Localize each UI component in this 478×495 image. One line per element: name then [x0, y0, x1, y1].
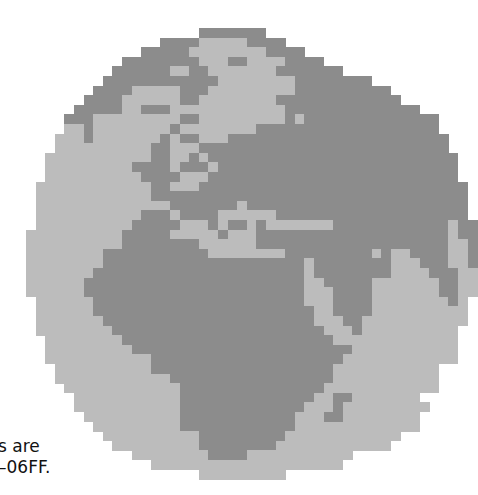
ocean-pixel	[170, 393, 180, 403]
land-pixel	[266, 364, 276, 374]
ocean-pixel	[122, 220, 132, 230]
land-pixel	[160, 38, 170, 48]
ocean-pixel	[74, 402, 84, 412]
land-pixel	[285, 364, 295, 374]
ocean-pixel	[372, 326, 382, 336]
ocean-pixel	[304, 412, 314, 422]
ocean-pixel	[247, 124, 257, 134]
land-pixel	[237, 162, 247, 172]
land-pixel	[151, 153, 161, 163]
land-pixel	[276, 153, 286, 163]
land-pixel	[208, 354, 218, 364]
land-pixel	[285, 422, 295, 432]
land-pixel	[343, 258, 353, 268]
land-pixel	[448, 297, 458, 307]
land-pixel	[276, 364, 286, 374]
land-pixel	[247, 422, 257, 432]
land-pixel	[458, 210, 468, 220]
ocean-pixel	[304, 441, 314, 451]
ocean-pixel	[333, 422, 343, 432]
ocean-pixel	[45, 335, 55, 345]
ocean-pixel	[170, 460, 180, 470]
ocean-pixel	[199, 47, 209, 57]
land-pixel	[199, 86, 209, 96]
ocean-pixel	[420, 287, 430, 297]
ocean-pixel	[84, 316, 94, 326]
land-pixel	[122, 258, 132, 268]
ocean-pixel	[295, 412, 305, 422]
ocean-pixel	[276, 105, 286, 115]
ocean-pixel	[304, 297, 314, 307]
land-pixel	[266, 153, 276, 163]
land-pixel	[400, 162, 410, 172]
land-pixel	[324, 268, 334, 278]
land-pixel	[160, 364, 170, 374]
ocean-pixel	[189, 172, 199, 182]
land-pixel	[84, 124, 94, 134]
ocean-pixel	[429, 297, 439, 307]
ocean-pixel	[362, 374, 372, 384]
ocean-pixel	[36, 230, 46, 240]
land-pixel	[372, 191, 382, 201]
ocean-pixel	[391, 345, 401, 355]
land-pixel	[266, 354, 276, 364]
land-pixel	[93, 278, 103, 288]
land-pixel	[247, 38, 257, 48]
land-pixel	[285, 345, 295, 355]
land-pixel	[276, 239, 286, 249]
land-pixel	[295, 134, 305, 144]
land-pixel	[228, 364, 238, 374]
ocean-pixel	[333, 450, 343, 460]
ocean-pixel	[237, 114, 247, 124]
land-pixel	[199, 383, 209, 393]
land-pixel	[324, 230, 334, 240]
land-pixel	[256, 182, 266, 192]
ocean-pixel	[103, 345, 113, 355]
land-pixel	[112, 258, 122, 268]
ocean-pixel	[256, 47, 266, 57]
land-pixel	[103, 297, 113, 307]
land-pixel	[170, 326, 180, 336]
land-pixel	[160, 258, 170, 268]
land-pixel	[180, 191, 190, 201]
ocean-pixel	[93, 230, 103, 240]
land-pixel	[381, 258, 391, 268]
land-pixel	[266, 230, 276, 240]
land-pixel	[170, 374, 180, 384]
land-pixel	[256, 258, 266, 268]
ocean-pixel	[55, 306, 65, 316]
ocean-pixel	[276, 460, 286, 470]
land-pixel	[333, 230, 343, 240]
land-pixel	[352, 268, 362, 278]
ocean-pixel	[420, 326, 430, 336]
ocean-pixel	[74, 162, 84, 172]
ocean-pixel	[160, 86, 170, 96]
ocean-pixel	[64, 124, 74, 134]
land-pixel	[189, 278, 199, 288]
land-pixel	[429, 210, 439, 220]
ocean-pixel	[55, 191, 65, 201]
land-pixel	[295, 278, 305, 288]
land-pixel	[151, 316, 161, 326]
land-pixel	[247, 28, 257, 38]
ocean-pixel	[132, 431, 142, 441]
caption-line-2: –06FF.	[0, 457, 50, 477]
ocean-pixel	[391, 306, 401, 316]
ocean-pixel	[391, 393, 401, 403]
ocean-pixel	[439, 345, 449, 355]
land-pixel	[314, 172, 324, 182]
ocean-pixel	[26, 230, 36, 240]
ocean-pixel	[55, 230, 65, 240]
ocean-pixel	[122, 191, 132, 201]
land-pixel	[295, 297, 305, 307]
ocean-pixel	[458, 278, 468, 288]
land-pixel	[141, 326, 151, 336]
ocean-pixel	[304, 287, 314, 297]
land-pixel	[208, 76, 218, 86]
land-pixel	[247, 191, 257, 201]
land-pixel	[122, 76, 132, 86]
land-pixel	[218, 402, 228, 412]
land-pixel	[256, 335, 266, 345]
land-pixel	[410, 172, 420, 182]
land-pixel	[333, 76, 343, 86]
